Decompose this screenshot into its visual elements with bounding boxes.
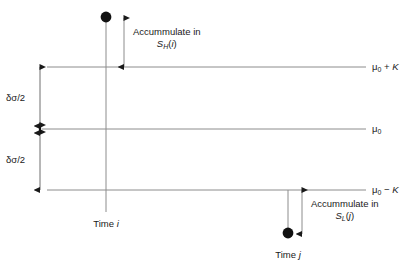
stat-symbol-sl-sub: L	[342, 215, 346, 222]
figure-canvas: μ0 + K μ0 μ0 − K δσ/2 δσ/2 Accummulate i…	[0, 0, 420, 273]
time-stems	[106, 19, 288, 231]
level-label-lower-sub: 0	[377, 189, 381, 196]
level-label-lower-k: K	[392, 184, 398, 195]
level-label-upper-sub: 0	[377, 66, 381, 73]
accumulate-annotation-lower-line1: Accummulate in	[311, 198, 379, 209]
accumulate-annotation-upper: Accummulate in SH(i)	[133, 26, 201, 50]
time-marker-j-label: Time j	[258, 249, 318, 261]
diagram-svg	[0, 0, 420, 273]
sigma-label-upper: δσ/2	[6, 92, 25, 104]
time-marker-i-text: Time	[93, 218, 116, 229]
time-marker-i-label: Time i	[76, 218, 136, 230]
level-lines	[42, 67, 366, 190]
time-marker-j-index: j	[299, 249, 301, 260]
time-marker-j-text: Time	[275, 249, 298, 260]
level-label-upper-k: K	[392, 61, 398, 72]
stat-symbol-sl: S	[335, 210, 341, 221]
accumulate-annotation-upper-line2: SH(i)	[133, 38, 201, 50]
level-label-lower: μ0 − K	[372, 184, 399, 196]
accumulate-annotation-upper-line1: Accummulate in	[133, 26, 201, 37]
observation-dot-i	[101, 12, 112, 23]
accumulate-annotation-lower-line2: SL(j)	[311, 210, 379, 222]
accumulate-annotation-lower: Accummulate in SL(j)	[311, 198, 379, 222]
stat-symbol-sl-arg-close: )	[351, 210, 354, 221]
level-label-upper: μ0 + K	[372, 61, 399, 73]
observation-dot-j	[283, 228, 294, 239]
sigma-label-lower: δσ/2	[6, 154, 25, 166]
level-label-lower-suffix: −	[381, 184, 392, 195]
accumulate-arrows	[124, 18, 302, 234]
stat-symbol-sh-arg-close: )	[174, 38, 177, 49]
stat-symbol-sh-sub: H	[163, 43, 168, 50]
time-marker-i-index: i	[117, 218, 119, 229]
level-label-center-sub: 0	[377, 128, 381, 135]
level-label-center: μ0	[372, 123, 381, 135]
level-label-upper-suffix: +	[381, 61, 392, 72]
